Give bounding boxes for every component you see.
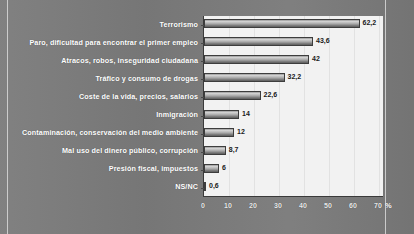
x-tick-label: 10 [224,202,232,209]
bar-row: 12 [204,125,384,143]
x-tick-label: 30 [274,202,282,209]
bar-row: 42 [204,52,384,70]
bar-row: 6 [204,161,384,179]
bar [204,55,309,64]
bar [204,91,261,100]
y-tickmark [201,170,204,171]
bar [204,182,206,191]
bar-row: 32,2 [204,70,384,88]
x-tick-label: 70 [374,202,382,209]
category-label: Atracos, robos, inseguridad ciudadana [0,57,198,65]
plot-area: 62,243,64232,222,614128,760,6 [203,16,383,197]
bar-row: 22,6 [204,88,384,106]
bar-chart-figure: TerrorismoParo, dificultad para encontra… [0,0,414,234]
category-label: Presión fiscal, impuestos [0,165,198,173]
x-tick-label: 0 [201,202,205,209]
bar-value-label: 14 [242,108,250,120]
category-label: Paro, dificultad para encontrar el prime… [0,39,198,47]
y-tickmark [201,116,204,117]
category-axis-labels: TerrorismoParo, dificultad para encontra… [0,16,201,197]
bar-value-label: 0,6 [209,180,219,192]
bar [204,110,239,119]
x-tick-label: 60 [349,202,357,209]
axis-unit-label: % [385,201,392,210]
category-label: NS/NC [0,183,198,191]
plot-inner: 62,243,64232,222,614128,760,6 [204,16,383,196]
x-tick-label: 50 [324,202,332,209]
y-tickmark [201,61,204,62]
bar-value-label: 22,6 [264,89,278,101]
x-tick-label: 40 [299,202,307,209]
category-label: Tráfico y consumo de drogas [0,75,198,83]
bar-value-label: 42 [312,53,320,65]
y-tickmark [201,79,204,80]
bar-row: 8,7 [204,143,384,161]
bar [204,128,234,137]
bar-value-label: 32,2 [288,71,302,83]
y-tickmark [201,188,204,189]
bar-value-label: 62,2 [363,17,377,29]
bar-row: 43,6 [204,34,384,52]
y-tickmark [201,134,204,135]
category-label: Contaminación, conservación del medio am… [0,129,198,137]
bar [204,164,219,173]
category-label: Inmigración [0,111,198,119]
bar-value-label: 8,7 [229,144,239,156]
y-tickmark [201,97,204,98]
y-tickmark [201,25,204,26]
bar [204,146,226,155]
bar-row: 14 [204,107,384,125]
x-tick-label: 20 [249,202,257,209]
bar [204,73,285,82]
bar [204,37,313,46]
bar [204,19,360,28]
bar-value-label: 12 [237,126,245,138]
y-tickmark [201,152,204,153]
x-axis: 010203040506070% [203,199,403,215]
bar-row: 0,6 [204,179,384,197]
category-label: Mal uso del dinero público, corrupción [0,147,198,155]
y-tickmark [201,43,204,44]
bar-value-label: 6 [222,162,226,174]
bar-row: 62,2 [204,16,384,34]
category-label: Coste de la vida, precios, salarios [0,93,198,101]
category-label: Terrorismo [0,21,198,29]
bar-value-label: 43,6 [316,35,330,47]
